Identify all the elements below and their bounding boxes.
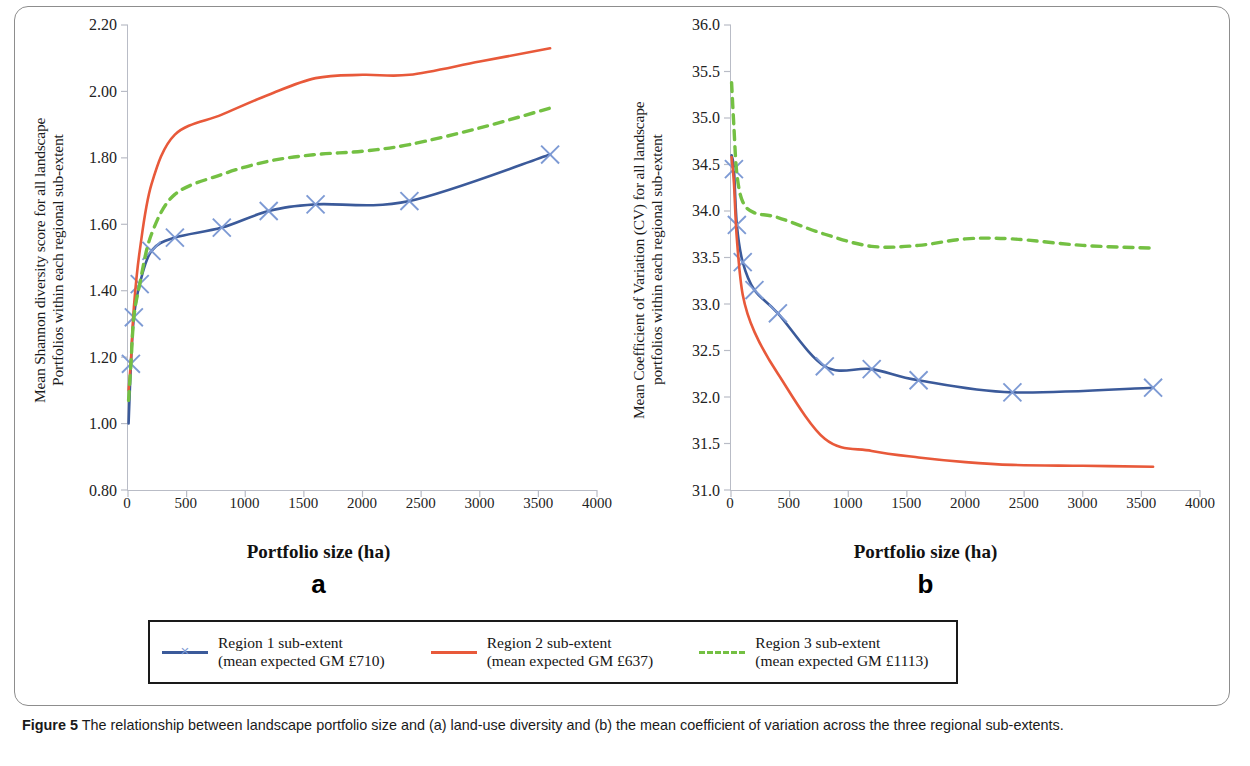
caption-figure-number: Figure 5 [22,717,78,733]
x-tick-label: 4000 [1185,495,1215,512]
panel-letter-a: a [15,569,622,600]
x-tick-label: 500 [175,495,198,512]
x-tick-label: 2000 [347,495,377,512]
chart-panel-b: Mean Coefficient of Variation (CV) for a… [622,7,1229,617]
x-tick-label: 1000 [833,495,863,512]
y-tick-label: 1.20 [89,349,117,367]
y-tick-label: 35.0 [692,109,720,127]
series-line [732,157,1154,467]
legend-item: ×Region 1 sub-extent (mean expected GM £… [150,634,419,670]
plot-area-b [730,25,1200,491]
y-tick-label: 31.5 [692,435,720,453]
series-line [129,108,551,400]
data-point-marker [769,304,787,322]
chart-panel-a: Mean Shannon diversity score for all lan… [15,7,622,617]
legend-label: Region 3 sub-extent (mean expected GM £1… [755,634,928,670]
x-tick-label: 2500 [1009,495,1039,512]
plot-wrap-b: 31.031.532.032.533.033.534.034.535.035.5… [680,25,1200,525]
y-axis-label-b: Mean Coefficient of Variation (CV) for a… [630,21,674,499]
y-tick-label: 32.5 [692,342,720,360]
x-tick-label: 0 [726,495,734,512]
caption-text: The relationship between landscape portf… [78,717,1064,733]
x-tick-label: 1000 [230,495,260,512]
data-point-marker [745,281,763,299]
charts-row: Mean Shannon diversity score for all lan… [15,7,1229,617]
x-axis-label-a: Portfolio size (ha) [15,541,622,563]
y-tick-label: 1.40 [89,282,117,300]
y-tick-label: 33.5 [692,249,720,267]
data-point-marker [541,146,559,164]
x-tick-label: 500 [778,495,801,512]
legend-label: Region 1 sub-extent (mean expected GM £7… [218,634,385,670]
y-axis-label-a: Mean Shannon diversity score for all lan… [31,21,75,499]
y-tick-label: 31.0 [692,482,720,500]
data-point-marker [734,253,752,271]
x-tick-label: 3500 [1126,495,1156,512]
chart-svg-a [128,25,597,490]
data-point-marker [166,229,184,247]
x-tick-label: 1500 [288,495,318,512]
figure-frame: Mean Shannon diversity score for all lan… [14,6,1230,706]
x-tick-label: 1500 [891,495,921,512]
y-tick-label: 32.0 [692,389,720,407]
chart-svg-b [731,25,1200,490]
y-tick-label: 1.00 [89,415,117,433]
x-tick-label: 3000 [1068,495,1098,512]
x-tick-labels-a: 05001000150020002500300035004000 [127,495,597,515]
x-tick-label: 2500 [406,495,436,512]
legend-label: Region 2 sub-extent (mean expected GM £6… [487,634,654,670]
legend-marker-x-icon: × [181,642,190,659]
data-point-marker [816,357,834,375]
x-tick-label: 3000 [465,495,495,512]
legend-item: Region 3 sub-extent (mean expected GM £1… [687,634,956,670]
figure-caption: Figure 5 The relationship between landsc… [22,714,1217,736]
chart-legend: ×Region 1 sub-extent (mean expected GM £… [148,620,958,684]
y-tick-label: 34.5 [692,156,720,174]
x-tick-labels-b: 05001000150020002500300035004000 [730,495,1200,515]
plot-wrap-a: 0.801.001.201.401.601.802.002.20 0500100… [77,25,597,525]
series-line [129,155,551,424]
y-tick-label: 0.80 [89,482,117,500]
x-tick-label: 3500 [523,495,553,512]
legend-item: Region 2 sub-extent (mean expected GM £6… [419,634,688,670]
x-axis-label-b: Portfolio size (ha) [622,541,1229,563]
x-tick-label: 2000 [950,495,980,512]
y-tick-label: 34.0 [692,202,720,220]
y-tick-labels-a: 0.801.001.201.401.601.802.002.20 [77,25,121,525]
y-tick-label: 1.60 [89,216,117,234]
y-tick-label: 2.20 [89,16,117,34]
series-line [732,155,1154,392]
x-tick-label: 0 [123,495,131,512]
y-tick-label: 33.0 [692,296,720,314]
y-tick-label: 35.5 [692,63,720,81]
y-tick-labels-b: 31.031.532.032.533.033.534.034.535.035.5… [680,25,724,525]
plot-area-a [127,25,597,491]
series-line [732,83,1154,249]
y-tick-label: 36.0 [692,16,720,34]
data-point-marker [260,202,278,220]
series-line [129,48,551,390]
data-point-marker [213,219,231,237]
x-tick-label: 4000 [582,495,612,512]
y-tick-label: 2.00 [89,83,117,101]
y-tick-label: 1.80 [89,149,117,167]
panel-letter-b: b [622,569,1229,600]
